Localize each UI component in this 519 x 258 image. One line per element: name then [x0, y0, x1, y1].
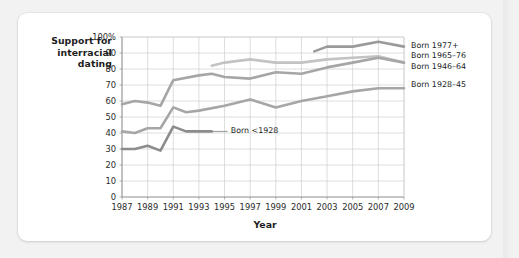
- y-tick-label: 70: [76, 80, 116, 90]
- y-tick-label: 80: [76, 64, 116, 74]
- y-tick-label: 60: [76, 96, 116, 106]
- page-edge-artifact: [503, 0, 513, 258]
- y-tick-label: 30: [76, 144, 116, 154]
- series-label-born-1977: Born 1977+: [411, 41, 459, 50]
- y-tick-label: 40: [76, 128, 116, 138]
- y-tick-label: 0: [76, 192, 116, 202]
- y-tick-label: 90: [76, 48, 116, 58]
- chart-stage: Support for interracial dating Year 0102…: [18, 13, 491, 241]
- x-axis-title: Year: [122, 219, 408, 230]
- y-tick-label: 10: [76, 176, 116, 186]
- y-tick-label: 20: [76, 160, 116, 170]
- series-label-born-1965-76: Born 1965–76: [411, 51, 466, 60]
- series-line: [314, 42, 404, 52]
- series-label-born-lt-1928: Born <1928: [231, 126, 279, 135]
- series-label-born-1928-45: Born 1928–45: [411, 80, 466, 89]
- figure-card: Support for interracial dating Year 0102…: [18, 13, 491, 241]
- x-tick-label: 2009: [384, 202, 424, 212]
- y-tick-label: 100%: [76, 32, 116, 42]
- series-line: [122, 127, 212, 151]
- y-tick-label: 50: [76, 112, 116, 122]
- series-label-born-1946-64: Born 1946–64: [411, 62, 466, 71]
- series-line: [122, 58, 404, 106]
